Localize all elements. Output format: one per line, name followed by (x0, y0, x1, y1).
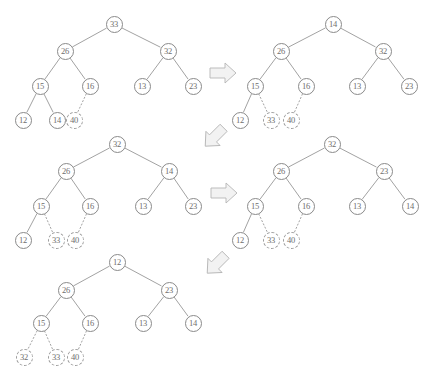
tree-edge (340, 148, 377, 167)
tree-node: 33 (48, 349, 65, 366)
tree-node: 23 (161, 282, 178, 299)
tree-edge (174, 297, 188, 316)
arrow-shape (210, 63, 236, 83)
arrow-down-left-icon (196, 120, 230, 158)
tree-node: 15 (33, 198, 50, 215)
tree-edge (286, 58, 301, 79)
tree-edge (27, 214, 37, 233)
tree-node: 14 (325, 16, 342, 33)
tree-edge (44, 94, 53, 113)
tree-edge (173, 58, 188, 79)
tree-node: 40 (66, 112, 83, 129)
tree-edge (71, 178, 85, 199)
tree-node: 15 (33, 315, 50, 332)
tree-edge (27, 94, 36, 113)
tree-edge (28, 331, 37, 350)
tree-node: 14 (161, 163, 178, 180)
tree-node: 32 (375, 43, 392, 60)
tree-edge (260, 58, 276, 79)
tree-node: 16 (82, 78, 99, 95)
tree-node: 13 (349, 198, 366, 215)
tree-node: 15 (32, 78, 49, 95)
tree-node: 32 (109, 136, 126, 153)
tree-edge (44, 331, 52, 349)
arrow-right-icon (207, 57, 241, 95)
arrow-shape (198, 121, 230, 154)
tree-node: 33 (263, 112, 280, 129)
tree-node: 26 (58, 282, 75, 299)
tree-node: 33 (48, 232, 65, 249)
tree-edge (125, 148, 162, 167)
tree-edge (389, 178, 405, 199)
tree-node: 16 (298, 78, 315, 95)
tree-node: 26 (273, 163, 290, 180)
tree-node: 14 (49, 112, 66, 129)
tree-edge (45, 58, 60, 79)
tree-node: 40 (67, 349, 84, 366)
tree-node: 12 (232, 112, 249, 129)
arrow-right-icon (208, 177, 242, 215)
tree-node: 32 (324, 136, 341, 153)
tree-node: 40 (283, 112, 300, 129)
tree-edge (46, 178, 61, 199)
tree-edge (362, 58, 378, 79)
tree-edge (294, 94, 302, 112)
tree-edge (44, 214, 52, 232)
tree-node: 15 (247, 78, 264, 95)
tree-edge (286, 178, 301, 199)
tree-node: 14 (185, 315, 202, 332)
tree-node: 40 (67, 232, 84, 249)
tree-node: 26 (57, 43, 74, 60)
tree-edge (388, 58, 404, 79)
tree-edge (46, 297, 61, 316)
tree-edge (148, 178, 164, 199)
tree-node: 23 (376, 163, 393, 180)
tree-edge (122, 28, 161, 47)
tree-edge (289, 148, 325, 167)
tree-edge (72, 28, 106, 47)
tree-node: 13 (135, 198, 152, 215)
tree-edge (78, 214, 86, 232)
tree-node: 12 (232, 232, 249, 249)
tree-edge (124, 266, 161, 286)
tree-node: 13 (349, 78, 366, 95)
tree-node: 26 (273, 43, 290, 60)
tree-edge (260, 178, 276, 199)
tree-node: 16 (298, 198, 315, 215)
tree-edge (70, 58, 85, 79)
tree-node: 15 (247, 198, 264, 215)
tree-edge (174, 178, 188, 199)
diagram-canvas: 3326321516132312144014263215161323123340… (0, 0, 428, 377)
tree-edge (362, 178, 379, 200)
tree-edge (259, 214, 268, 233)
tree-node: 12 (15, 112, 32, 129)
tree-node: 16 (82, 198, 99, 215)
tree-edge (78, 94, 87, 113)
tree-edge (340, 28, 375, 47)
tree-edge (78, 331, 86, 349)
tree-edge (74, 148, 110, 167)
tree-edge (294, 214, 302, 232)
tree-node: 13 (134, 78, 151, 95)
tree-node: 16 (82, 315, 99, 332)
tree-edge (73, 266, 109, 286)
tree-edge (289, 28, 326, 47)
tree-edge (259, 94, 268, 113)
tree-node: 33 (263, 232, 280, 249)
tree-node: 14 (402, 198, 419, 215)
tree-node: 32 (16, 349, 33, 366)
tree-edge (243, 94, 251, 112)
arrow-shape (211, 183, 237, 203)
tree-node: 40 (283, 232, 300, 249)
tree-node: 23 (185, 198, 202, 215)
arrow-shape (200, 248, 232, 281)
tree-node: 23 (401, 78, 418, 95)
tree-edge (243, 214, 251, 232)
arrow-down-left-icon (198, 247, 232, 285)
tree-edge (147, 58, 163, 79)
tree-node: 32 (160, 43, 177, 60)
tree-node: 33 (106, 16, 123, 33)
tree-edge (71, 297, 85, 316)
tree-edge (148, 297, 163, 317)
tree-node: 23 (185, 78, 202, 95)
